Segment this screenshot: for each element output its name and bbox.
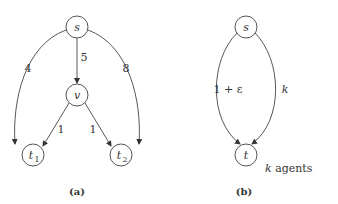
- node-t-label: t: [244, 149, 249, 162]
- agents-annotation: k agents: [265, 162, 313, 175]
- node-t2-label: t: [117, 149, 122, 162]
- edge-right-weight: k: [282, 83, 289, 96]
- edge-s-t1-weight: 4: [25, 62, 32, 75]
- node-s-label: s: [243, 21, 249, 34]
- node-t1-label: t: [29, 149, 34, 162]
- edge-v-t1-weight: 1: [58, 123, 65, 136]
- edge-left-weight: 1 + ε: [214, 83, 243, 96]
- panel-b: s t 1 + ε k k agents (b): [214, 16, 313, 197]
- agents-text: agents: [272, 162, 313, 175]
- edge-right: [252, 33, 276, 144]
- edge-v-t2-weight: 1: [90, 123, 97, 136]
- caption-a: (a): [69, 186, 85, 197]
- edge-s-t2-weight: 8: [123, 62, 130, 75]
- caption-b: (b): [236, 186, 252, 197]
- edge-v-t1: [43, 103, 69, 146]
- figure: s v t 1 t 2 4 5 8 1 1 (a) s t 1 + ε k k …: [0, 0, 338, 204]
- node-s-label: s: [74, 21, 80, 34]
- node-t2-subscript: 2: [122, 155, 127, 164]
- node-t1-subscript: 1: [34, 155, 39, 164]
- node-v-label: v: [74, 89, 81, 102]
- panel-a: s v t 1 t 2 4 5 8 1 1 (a): [15, 16, 140, 197]
- edge-s-v-weight: 5: [81, 51, 88, 64]
